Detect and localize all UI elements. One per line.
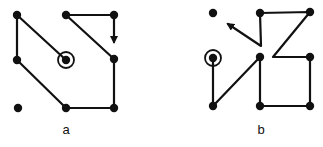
node-tr: [306, 8, 314, 16]
node-bl: [209, 102, 217, 110]
diagram-label: b: [257, 122, 264, 137]
diagram-label: a: [62, 122, 70, 137]
node-br: [306, 102, 314, 110]
node-mr: [306, 53, 314, 61]
node-tl: [13, 11, 21, 19]
node-bl: [14, 104, 22, 112]
node-mr: [110, 55, 118, 63]
node-mm: [256, 53, 264, 61]
node-tl: [209, 9, 217, 17]
node-ml: [13, 56, 21, 64]
node-tm: [256, 9, 264, 17]
diagram-canvas: a b: [0, 0, 323, 147]
diagram-a: a: [13, 11, 118, 137]
node-tr: [110, 11, 118, 19]
node-bm: [62, 104, 70, 112]
diagram-b: b: [205, 8, 314, 137]
node-bm: [256, 102, 264, 110]
node-tm: [62, 11, 70, 19]
node-c: [62, 56, 70, 64]
node-ml: [209, 54, 217, 62]
node-br: [110, 104, 118, 112]
